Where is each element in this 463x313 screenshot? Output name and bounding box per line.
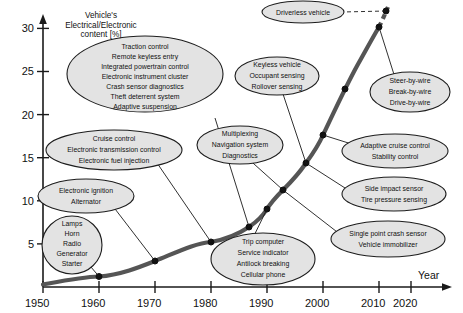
x-tick-label-1970: 1970 xyxy=(137,297,161,309)
bubble-item-side-impact-1: Tire pressure sensing xyxy=(361,196,427,204)
bubble-item-keyless-1: Occupant sensing xyxy=(249,72,304,80)
y-tick-label-30: 30 xyxy=(22,22,34,34)
bubble-item-steer-1: Break-by-wire xyxy=(389,88,432,96)
annotation-multiplexing-group[interactable]: Multiplexing Navigation system Diagnosti… xyxy=(197,126,283,164)
bubble-item-lamps-3: Generator xyxy=(56,250,88,257)
bubble-item-traction-control-3: Electronic instrument cluster xyxy=(102,73,189,80)
bubble-item-adaptive-1: Stability control xyxy=(372,153,419,161)
bubble-item-steer-2: Drive-by-wire xyxy=(390,99,431,107)
annotation-steer-by-wire-group[interactable]: Steer-by-wire Break-by-wire Drive-by-wir… xyxy=(370,72,450,112)
bubble-item-keyless-0: Keyless vehicle xyxy=(253,61,301,69)
bubble-item-adaptive-0: Adaptive cruise control xyxy=(360,142,430,150)
bubble-item-ignition-1: Alternator xyxy=(71,198,102,205)
bubble-item-trip-3: Cellular phone xyxy=(241,271,286,279)
bubble-item-side-impact-0: Side impact sensor xyxy=(365,185,424,193)
y-axis-arrowhead xyxy=(39,14,47,24)
bubble-item-lamps-0: Lamps xyxy=(62,220,83,228)
y-axis-ticks: 5 10 15 20 25 30 xyxy=(22,22,49,250)
x-tick-label-1950: 1950 xyxy=(25,297,49,309)
leader-keyless-vehicle xyxy=(280,85,306,163)
data-point-2000 xyxy=(342,86,348,92)
bubble-item-driverless-0: Driverless vehicle xyxy=(276,9,330,16)
bubble-item-traction-control-2: Integrated powertrain control xyxy=(101,63,189,71)
bubble-item-cruise-2: Electronic fuel injection xyxy=(79,157,150,165)
annotation-traction-control-group[interactable]: Traction control Remote keyless entry In… xyxy=(67,36,223,112)
y-tick-label-5: 5 xyxy=(28,238,34,250)
annotation-side-impact-group[interactable]: Side impact sensor Tire pressure sensing xyxy=(342,177,446,211)
bubble-item-trip-1: Service indicator xyxy=(238,249,290,256)
bubble-item-lamps-2: Radio xyxy=(63,240,81,247)
bubble-item-traction-control-6: Adaptive suspension xyxy=(113,103,177,111)
chart-figure: 5 10 15 20 25 30 1950 1960 1970 1980 199… xyxy=(0,0,463,313)
bubble-item-multiplexing-1: Navigation system xyxy=(212,141,269,149)
bubble-electronic-ignition[interactable] xyxy=(38,179,134,213)
x-tick-label-1990: 1990 xyxy=(249,297,273,309)
bubble-item-traction-control-1: Remote keyless entry xyxy=(112,53,179,61)
y-axis-title-line-1: Vehicle's xyxy=(85,11,117,20)
x-tick-label-2020: 2020 xyxy=(393,297,417,309)
leader-driverless-vehicle xyxy=(342,11,386,12)
annotation-single-point-crash-group[interactable]: Single point crash sensor Vehicle immobi… xyxy=(331,221,445,257)
bubble-item-multiplexing-2: Diagnostics xyxy=(222,152,258,160)
annotation-electronic-ignition-group[interactable]: Electronic ignition Alternator xyxy=(38,179,134,213)
annotation-driverless-vehicle-group[interactable]: Driverless vehicle xyxy=(262,1,344,23)
bubble-item-cruise-0: Cruise control xyxy=(93,135,136,142)
x-axis-arrowhead xyxy=(442,283,452,291)
bubble-item-trip-2: Antilock breaking xyxy=(237,260,290,268)
chart-svg: 5 10 15 20 25 30 1950 1960 1970 1980 199… xyxy=(0,0,463,313)
leader-single-point-crash xyxy=(283,190,341,235)
bubble-item-crash-1: Vehicle immobilizer xyxy=(359,241,419,248)
x-tick-label-2010: 2010 xyxy=(361,297,385,309)
x-tick-label-2000: 2000 xyxy=(305,297,329,309)
leader-side-impact xyxy=(306,163,345,188)
bubble-single-point-crash[interactable] xyxy=(331,221,445,257)
y-tick-label-25: 25 xyxy=(22,65,34,77)
x-tick-label-1980: 1980 xyxy=(193,297,217,309)
annotation-adaptive-cruise-group[interactable]: Adaptive cruise control Stability contro… xyxy=(342,134,448,168)
x-axis-title: Year xyxy=(418,269,440,281)
x-axis-ticks: 1950 1960 1970 1980 1990 2000 2010 2020 xyxy=(25,281,417,309)
bubble-item-keyless-2: Rollover sensing xyxy=(252,83,303,91)
y-axis-title: Vehicle's Electrical/Electronic content … xyxy=(65,11,136,39)
leader-electronic-ignition xyxy=(112,205,155,261)
leader-cruise-control xyxy=(155,160,211,242)
bubble-item-lamps-4: Starter xyxy=(62,260,83,267)
bubble-adaptive-cruise[interactable] xyxy=(342,134,448,168)
bubble-item-ignition-0: Electronic ignition xyxy=(59,187,113,195)
bubble-item-multiplexing-0: Multiplexing xyxy=(222,130,259,138)
bubble-item-cruise-1: Electronic transmission control xyxy=(67,146,161,153)
bubble-item-steer-0: Steer-by-wire xyxy=(390,77,431,85)
x-tick-label-1960: 1960 xyxy=(81,297,105,309)
y-axis-title-line-2: Electrical/Electronic xyxy=(65,21,136,30)
y-tick-label-15: 15 xyxy=(22,152,34,164)
bubble-item-trip-0: Trip computer xyxy=(242,238,285,246)
bubble-item-crash-0: Single point crash sensor xyxy=(349,230,427,238)
bubble-item-traction-control-5: Theft deterrent system xyxy=(111,93,180,101)
bubble-item-traction-control-4: Crash sensor diagnostics xyxy=(106,83,184,91)
bubble-item-traction-control-0: Traction control xyxy=(121,43,169,50)
bubble-item-lamps-1: Horn xyxy=(65,230,80,237)
bubble-side-impact[interactable] xyxy=(342,177,446,211)
annotation-lamps-group[interactable]: Lamps Horn Radio Generator Starter xyxy=(42,216,102,274)
y-axis-title-line-3: content [%] xyxy=(81,30,122,39)
y-tick-label-10: 10 xyxy=(22,195,34,207)
annotation-trip-computer-group[interactable]: Trip computer Service indicator Antilock… xyxy=(211,233,315,285)
y-tick-label-20: 20 xyxy=(22,109,34,121)
annotation-cruise-control-group[interactable]: Cruise control Electronic transmission c… xyxy=(46,130,182,170)
annotation-keyless-vehicle-group[interactable]: Keyless vehicle Occupant sensing Rollove… xyxy=(235,57,319,95)
